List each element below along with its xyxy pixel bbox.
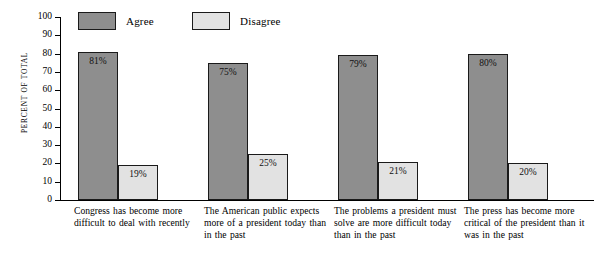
y-tick-mark — [55, 35, 61, 36]
category-captions: Congress has become more difficult to de… — [60, 205, 600, 261]
y-tick-mark — [55, 163, 61, 164]
bar-agree-4: 80% — [468, 54, 508, 200]
y-tick-label: 40 — [43, 121, 53, 132]
plot-area: 1009080706050403020100 81%19%75%25%79%21… — [60, 17, 594, 201]
x-axis-line — [60, 200, 594, 201]
y-tick-label: 30 — [43, 139, 53, 150]
y-tick-label: 80 — [43, 48, 53, 59]
bar-disagree-3: 21% — [378, 162, 418, 200]
y-tick-label: 20 — [43, 157, 53, 168]
bar-agree-1: 81% — [78, 52, 118, 200]
y-tick-mark — [55, 109, 61, 110]
bar-value-label: 21% — [389, 166, 406, 199]
y-tick-label: 50 — [43, 103, 53, 114]
y-tick-mark — [55, 182, 61, 183]
y-tick-label: 60 — [43, 84, 53, 95]
y-tick-mark — [55, 54, 61, 55]
category-caption-3: The problems a president must solve are … — [334, 205, 458, 242]
y-tick-label: 0 — [47, 194, 52, 205]
bar-value-label: 80% — [479, 58, 496, 199]
bar-value-label: 20% — [519, 167, 536, 199]
y-tick-mark — [55, 90, 61, 91]
bar-value-label: 75% — [219, 67, 236, 199]
category-caption-1: Congress has become more difficult to de… — [74, 205, 198, 229]
bar-agree-2: 75% — [208, 63, 248, 200]
y-tick-mark — [55, 200, 61, 201]
bar-disagree-2: 25% — [248, 154, 288, 200]
y-tick-mark — [55, 127, 61, 128]
y-tick-label: 90 — [43, 29, 53, 40]
y-tick-mark — [55, 72, 61, 73]
category-caption-2: The American public expects more of a pr… — [204, 205, 328, 242]
y-tick-mark — [55, 17, 61, 18]
y-axis-title: PERCENT OF TOTAL — [20, 28, 29, 158]
y-tick-label: 100 — [38, 11, 52, 22]
bar-agree-3: 79% — [338, 55, 378, 200]
bar-value-label: 81% — [89, 56, 106, 199]
y-tick-mark — [55, 145, 61, 146]
bar-disagree-4: 20% — [508, 163, 548, 200]
bar-value-label: 19% — [129, 169, 146, 199]
bar-disagree-1: 19% — [118, 165, 158, 200]
bar-chart: Agree Disagree PERCENT OF TOTAL 10090807… — [0, 0, 602, 262]
y-tick-label: 10 — [43, 176, 53, 187]
bar-value-label: 79% — [349, 59, 366, 199]
category-caption-4: The press has become more critical of th… — [464, 205, 588, 242]
y-tick-label: 70 — [43, 66, 53, 77]
bar-value-label: 25% — [259, 158, 276, 199]
